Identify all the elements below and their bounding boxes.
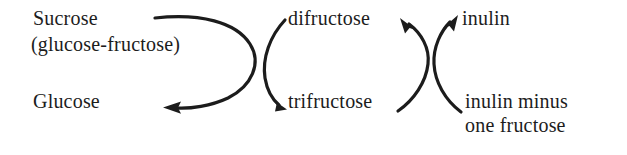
label-trifructose: trifructose [288,90,372,112]
label-glucose: Glucose [33,90,100,112]
label-inulin-minus: inulin minus [465,90,568,112]
arrowhead-up-right [443,15,458,32]
arrowhead-down-right [272,99,287,112]
sucrose-to-glucose-arrow [155,17,255,114]
label-one-fructose: one fructose [465,114,566,136]
label-difructose: difructose [288,7,370,29]
label-sucrose: Sucrose [33,7,98,29]
arrowhead-left [163,102,181,114]
label-inulin: inulin [462,7,510,29]
inulin-minus-to-inulin-arrow [434,15,461,112]
difructose-to-trifructose-arrow [264,20,287,112]
reaction-scheme-diagram: Sucrose (glucose-fructose) Glucose difru… [0,0,627,155]
arrowhead-up-left [400,18,416,34]
label-glucose-fructose: (glucose-fructose) [31,33,180,55]
trifructose-to-difructose-arrow [398,18,428,111]
